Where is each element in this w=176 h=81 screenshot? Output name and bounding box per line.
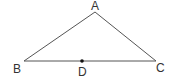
triangle-diagram: A B D C: [0, 0, 176, 81]
point-d-marker: [80, 59, 84, 63]
vertex-label-c: C: [156, 61, 165, 75]
segment-ac: [95, 12, 156, 61]
segment-ab: [24, 12, 95, 61]
vertex-label-b: B: [13, 62, 21, 76]
vertex-label-a: A: [91, 0, 99, 13]
point-label-d: D: [78, 65, 87, 79]
